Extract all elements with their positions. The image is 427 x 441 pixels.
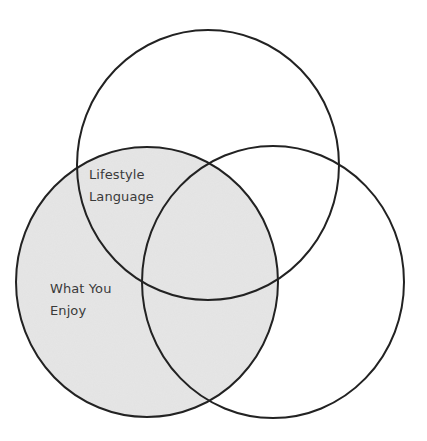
what-you-enjoy-label: What You Enjoy [50,278,112,322]
enjoy-label-line1: What You [50,278,112,300]
lifestyle-label-line2: Language [89,186,154,208]
enjoy-label-line2: Enjoy [50,300,112,322]
lifestyle-language-label: Lifestyle Language [89,164,154,208]
venn-diagram [0,0,427,441]
lifestyle-label-line1: Lifestyle [89,164,154,186]
